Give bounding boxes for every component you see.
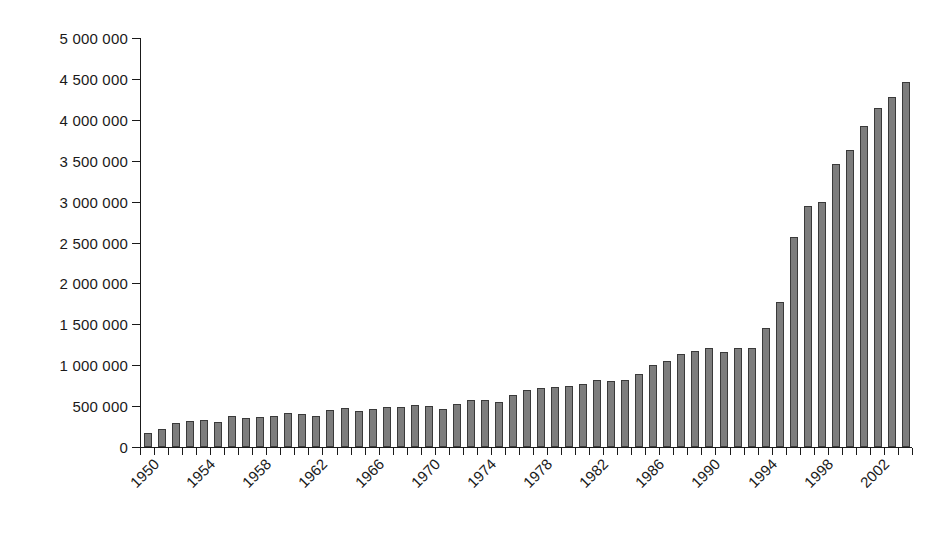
x-axis-tick (800, 448, 801, 455)
bar (888, 97, 896, 447)
x-axis-tick (140, 448, 141, 455)
bar (677, 354, 685, 447)
y-axis-tick-label: 3 500 000 (14, 154, 128, 169)
bar (326, 410, 334, 447)
y-axis-tick (132, 365, 140, 366)
x-axis-tick (477, 448, 478, 455)
bar (228, 416, 236, 447)
bar (383, 407, 391, 447)
x-axis-tick (603, 448, 604, 455)
bar (565, 386, 573, 447)
x-axis-tick (772, 448, 773, 455)
y-axis-tick (132, 324, 140, 325)
x-axis-tick (758, 448, 759, 455)
y-axis-tick-label-text: 4 500 000 (24, 72, 128, 87)
bar (411, 405, 419, 447)
x-axis-tick (182, 448, 183, 455)
y-axis-tick-label: 0 (14, 440, 128, 455)
x-axis-tick (294, 448, 295, 455)
bar (593, 380, 601, 447)
x-axis-tick (814, 448, 815, 455)
bar (663, 361, 671, 447)
bar (776, 302, 784, 447)
x-axis-tick (449, 448, 450, 455)
bar (172, 423, 180, 447)
x-axis-tick (308, 448, 309, 455)
x-axis-tick (196, 448, 197, 455)
x-axis-tick (533, 448, 534, 455)
bar (551, 387, 559, 447)
y-axis-tick-label-text: 2 500 000 (24, 236, 128, 251)
bar (649, 365, 657, 447)
y-axis-tick (132, 447, 140, 448)
x-axis-tick (393, 448, 394, 455)
y-axis-tick (132, 79, 140, 80)
x-axis-tick (856, 448, 857, 455)
bar (691, 351, 699, 447)
x-axis-tick-label: 1978 (513, 456, 555, 498)
y-axis-tick (132, 38, 140, 39)
y-axis-tick-label: 2 000 000 (14, 276, 128, 291)
y-axis-tick-label-text: 3 500 000 (24, 154, 128, 169)
x-axis-tick-label: 2002 (850, 456, 892, 498)
bar (635, 374, 643, 447)
x-axis-tick (519, 448, 520, 455)
y-axis-tick (132, 283, 140, 284)
bar (860, 126, 868, 447)
bar (270, 416, 278, 447)
x-axis-tick (617, 448, 618, 455)
y-axis-tick-label-text: 500 000 (24, 399, 128, 414)
x-axis-tick (645, 448, 646, 455)
y-axis-tick-label: 1 000 000 (14, 358, 128, 373)
bar (312, 416, 320, 447)
bar (874, 108, 882, 447)
x-axis-tick (884, 448, 885, 455)
bar (621, 380, 629, 447)
x-axis-tick (168, 448, 169, 455)
x-axis-tick (421, 448, 422, 455)
y-axis-tick-label: 4 500 000 (14, 72, 128, 87)
bar (846, 150, 854, 447)
x-axis-tick (280, 448, 281, 455)
bar (214, 422, 222, 447)
bar (762, 328, 770, 447)
y-axis-tick-label: 2 500 000 (14, 236, 128, 251)
x-axis-tick (435, 448, 436, 455)
x-axis-tick (407, 448, 408, 455)
x-axis-tick (547, 448, 548, 455)
x-axis-tick (898, 448, 899, 455)
bar (158, 429, 166, 447)
bar (242, 418, 250, 447)
x-axis-tick (842, 448, 843, 455)
x-axis-tick (210, 448, 211, 455)
bar (144, 433, 152, 447)
bar (537, 388, 545, 447)
bar (298, 414, 306, 447)
x-axis-tick (154, 448, 155, 455)
x-axis-tick (730, 448, 731, 455)
x-axis-tick (365, 448, 366, 455)
x-axis-tick (870, 448, 871, 455)
bar (397, 407, 405, 447)
x-axis-tick-label: 1954 (176, 456, 218, 498)
y-axis-tick-label-text: 5 000 000 (24, 31, 128, 46)
x-axis-tick-label: 1974 (457, 456, 499, 498)
x-axis-tick (912, 448, 913, 455)
bar (467, 400, 475, 447)
y-axis-tick-label-text: 4 000 000 (24, 113, 128, 128)
x-axis-tick (659, 448, 660, 455)
y-axis-tick-label: 500 000 (14, 399, 128, 414)
x-axis-tick (337, 448, 338, 455)
bar (579, 384, 587, 447)
x-axis-tick (786, 448, 787, 455)
x-axis-tick (224, 448, 225, 455)
x-axis-tick (238, 448, 239, 455)
bar (509, 395, 517, 447)
y-axis-tick-label-text: 1 000 000 (24, 358, 128, 373)
y-axis-tick (132, 243, 140, 244)
bar (200, 420, 208, 447)
x-axis-tick (673, 448, 674, 455)
bar (720, 352, 728, 447)
x-axis-tick (379, 448, 380, 455)
bar (284, 413, 292, 447)
